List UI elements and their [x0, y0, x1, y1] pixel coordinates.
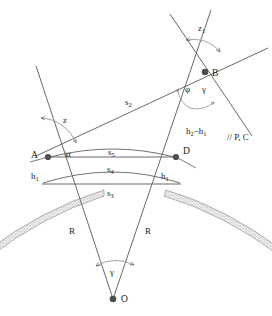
point-marker-D [173, 154, 179, 160]
angle-arc-gamma-at-B [190, 102, 214, 109]
distance-label-s4: s4 [107, 165, 114, 174]
geodetic-diagram-figure: A B D O z z1 α φ γ γ s2 s5 s4 s3 R R h1 … [0, 0, 272, 316]
parallel-reference-line-PC [170, 14, 252, 136]
distance-label-R-left: R [69, 227, 75, 236]
diagram-canvas [0, 0, 272, 316]
distance-label-R-right: R [145, 227, 151, 236]
height-label-h1-left: h1 [31, 172, 39, 181]
horizon-tail-right-D [176, 157, 196, 168]
annotation-parallel-PC: // P, C [227, 133, 249, 142]
angle-label-gamma-at-B: γ [202, 85, 206, 94]
point-marker-O [110, 296, 117, 303]
height-label-h2-minus-h1: h2−h1 [186, 127, 207, 136]
point-label-O: O [121, 295, 128, 305]
point-label-A: A [31, 151, 38, 161]
distance-label-s5: s5 [108, 148, 115, 157]
distance-label-s2: s2 [125, 98, 132, 107]
point-marker-A [45, 154, 51, 160]
point-label-D: D [183, 147, 190, 157]
angle-label-phi-at-B: φ [185, 85, 190, 94]
angle-arc-phi-at-B [178, 92, 190, 108]
distance-label-s3: s3 [107, 189, 114, 198]
angle-label-z-at-A: z [63, 116, 67, 125]
terrain-surface-right [164, 190, 272, 256]
angle-label-alpha-at-A: α [66, 150, 71, 159]
angle-label-gamma-at-O: γ [110, 268, 114, 277]
radius-line-left-OA [36, 66, 113, 299]
angle-label-z1-at-B: z1 [198, 24, 205, 33]
height-label-h1-right: h1 [161, 172, 169, 181]
point-label-B: B [212, 69, 218, 79]
point-marker-B [202, 69, 209, 76]
angle-arc-z-at-A [41, 118, 76, 143]
